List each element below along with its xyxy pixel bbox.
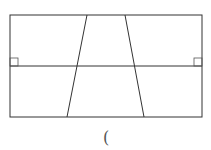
right-angle-mark-left: [10, 58, 18, 66]
right-angle-mark-right: [194, 58, 202, 66]
caption-text: (: [103, 128, 109, 148]
